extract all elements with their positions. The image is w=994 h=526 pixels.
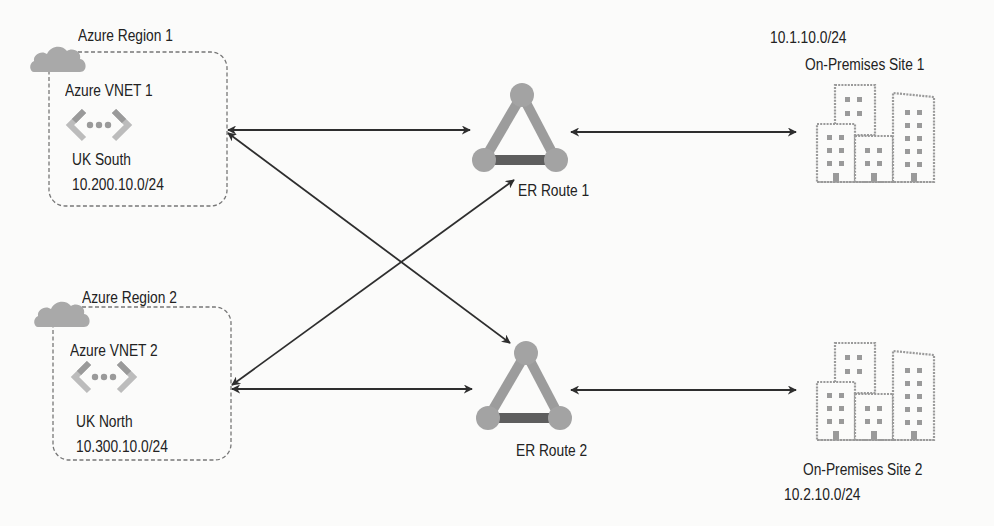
vnet-2-label: Azure VNET 2 — [70, 343, 158, 359]
expressroute-circuit-icon — [472, 83, 568, 172]
connection-vnet1-er2 — [228, 133, 510, 343]
er-route-2-label: ER Route 2 — [516, 443, 587, 459]
region-1-title: Azure Region 1 — [78, 28, 173, 44]
region-2-cidr: 10.300.10.0/24 — [76, 439, 168, 455]
site-2-cidr: 10.2.10.0/24 — [784, 487, 861, 503]
region-1-location: UK South — [72, 152, 131, 168]
site-2-label: On-Premises Site 2 — [803, 462, 922, 478]
buildings-icon — [817, 343, 934, 440]
buildings-icon — [817, 85, 934, 182]
region-1-cidr: 10.200.10.0/24 — [72, 177, 164, 193]
site-1-label: On-Premises Site 1 — [805, 57, 924, 73]
cloud-icon — [30, 47, 85, 72]
region-2-location: UK North — [76, 414, 133, 430]
expressroute-circuit-icon — [476, 341, 572, 430]
vnet-1-label: Azure VNET 1 — [65, 83, 153, 99]
vnet-icon — [75, 363, 133, 391]
site-1-cidr: 10.1.10.0/24 — [770, 30, 847, 46]
region-2-title: Azure Region 2 — [82, 290, 177, 306]
vnet-icon — [70, 111, 128, 139]
connection-vnet2-er1 — [232, 180, 514, 385]
er-route-1-label: ER Route 1 — [518, 183, 589, 199]
